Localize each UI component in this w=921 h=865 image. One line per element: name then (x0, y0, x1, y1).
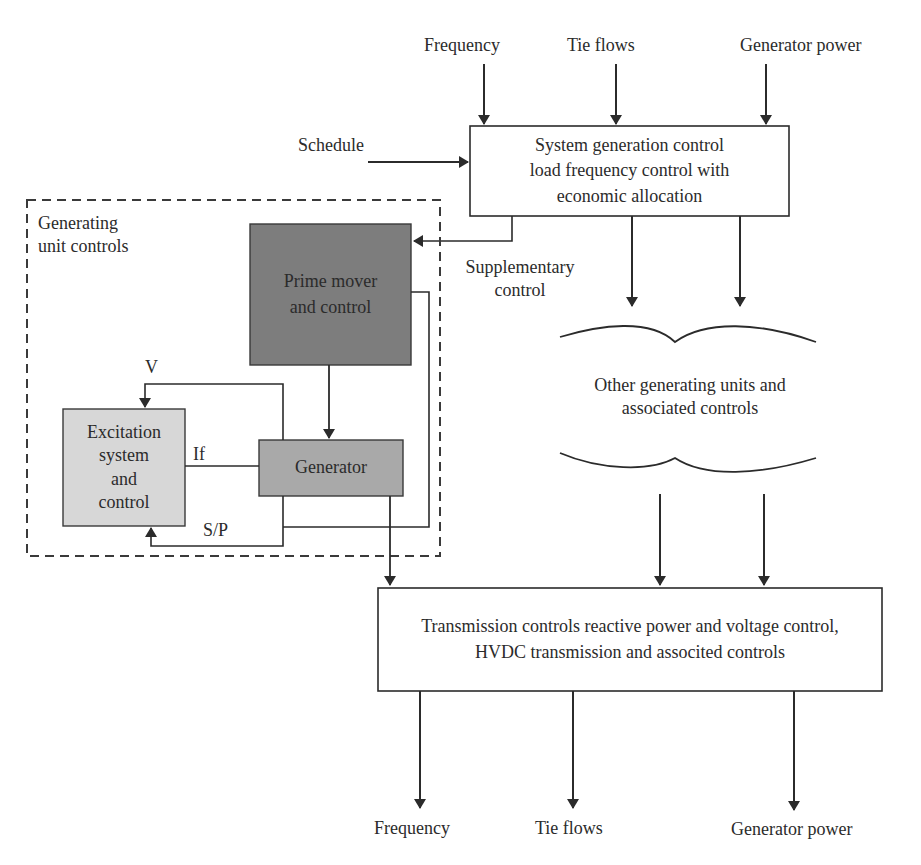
other-units-label: Other generating units and associated co… (572, 374, 808, 419)
excitation-text: Excitation system and control (63, 409, 185, 526)
guc-title-line-1: Generating (38, 212, 129, 235)
stabilizer-signal-label: S/P (203, 519, 228, 542)
supplementary-control-line (414, 216, 512, 241)
excitation-line-4: control (87, 491, 161, 514)
supplementary-control-line-1: Supplementary (450, 256, 590, 279)
tie-flows-input-label: Tie flows (567, 34, 635, 57)
prime-mover-line-1: Prime mover (284, 269, 377, 294)
generator-power-output-label: Generator power (731, 818, 852, 841)
generator-text: Generator (259, 440, 403, 496)
voltage-signal-label: V (145, 356, 158, 379)
prime-mover-text: Prime mover and control (250, 224, 411, 365)
field-current-signal-label: If (193, 443, 205, 466)
transmission-controls-text: Transmission controls reactive power and… (378, 588, 882, 691)
generating-unit-controls-title: Generating unit controls (38, 212, 129, 257)
system-generation-control-text: System generation control load frequency… (470, 126, 789, 216)
supplementary-control-line-2: control (450, 279, 590, 302)
excitation-line-2: system (87, 444, 161, 467)
other-units-top-brace (560, 326, 816, 342)
excitation-line-3: and (87, 468, 161, 491)
generator-power-input-label: Generator power (740, 34, 861, 57)
guc-title-line-2: unit controls (38, 235, 129, 258)
other-units-bottom-brace (560, 453, 816, 472)
frequency-input-label: Frequency (424, 34, 500, 57)
transmission-line-2: HVDC transmission and associted controls (421, 640, 839, 665)
excitation-line-1: Excitation (87, 421, 161, 444)
other-units-line-1: Other generating units and (572, 374, 808, 397)
other-units-line-2: associated controls (572, 397, 808, 420)
sgc-line-3: economic allocation (530, 184, 729, 209)
transmission-line-1: Transmission controls reactive power and… (421, 614, 839, 639)
supplementary-control-label: Supplementary control (450, 256, 590, 301)
frequency-output-label: Frequency (374, 817, 450, 840)
sgc-line-1: System generation control (530, 133, 729, 158)
sgc-line-2: load frequency control with (530, 158, 729, 183)
tie-flows-output-label: Tie flows (535, 817, 603, 840)
prime-mover-line-2: and control (284, 295, 377, 320)
schedule-label: Schedule (298, 134, 364, 157)
power-system-control-diagram: Frequency Tie flows Generator power Sche… (0, 0, 921, 865)
